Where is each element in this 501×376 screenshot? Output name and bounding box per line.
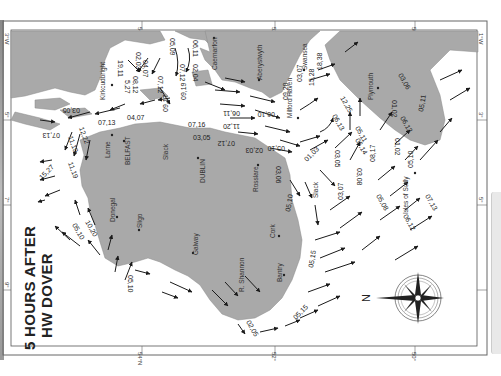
place-larne: Larne [104,141,111,158]
place-dublin: DUBLIN [199,159,206,183]
bottom-tick-54: 54°N [137,352,143,365]
slack-label: Slack [162,143,169,160]
place-caernarfon: Caernarfon [211,37,218,70]
rate-label: 07,13 [98,119,116,126]
rate-label: 02,03 [135,52,142,70]
rate-label: 06,11 [192,40,199,57]
right-tick-3: 3° [478,112,484,118]
rate-label: 03,08 [356,168,363,186]
rate-label: 04,07 [127,114,145,121]
rate-label: 03,05 [62,107,80,114]
rate-label: 04,07 [142,60,149,78]
place-swansea: Swansea [301,43,308,70]
place-plymouth: Plymouth [367,73,375,100]
rate-label: 05,09 [169,38,176,56]
rate-label: 07,12 [157,76,164,94]
title-line-2: HW DOVER [38,253,55,338]
place-donegal: Donegal [109,197,117,222]
rate-label: 19,11 [117,60,124,77]
rate-label: 01,02 [394,138,401,156]
place-river-shannon: R. Shannon [238,257,245,292]
left-tick-5: 5° [4,112,10,118]
place-rosslare: Rosslare [252,166,259,192]
place-isles-of-scilly: Isles of Scilly [402,176,410,214]
rate-label: 5,27 [124,80,131,94]
right-tick-5: 5° [478,197,484,203]
bottom-tick-52: 52° [271,352,277,362]
left-tick-9: 9° [4,282,10,288]
rate-label: 08,12 [132,76,139,94]
rate-label: 03,05 [334,150,341,168]
rate-label: 01,02 [391,100,398,118]
rate-label: 02,04 [192,64,199,82]
rate-label: 07,16 [188,121,206,128]
rate-label: 05,10 [407,150,414,168]
rate-label: 06,11 [223,110,240,117]
rate-label: 15,28 [308,68,315,86]
place-belfast: BELFAST [124,136,131,165]
rate-label: 11,20 [223,123,240,130]
rate-label: 03,06 [275,166,282,184]
rate-label: 05,10 [267,145,285,152]
place-sligo: Sligo [136,213,144,228]
rate-label: 03,05 [193,134,211,141]
compass-north-label: N [360,294,372,302]
rate-label: 02,03 [245,147,263,154]
rate-label: 05,10 [127,275,134,293]
right-tick-1w: 1°W [478,33,484,45]
rate-label: 03,07 [337,182,344,200]
rate-label: 07,13 [42,132,60,139]
rate-label: 07,12 [217,140,235,147]
place-cork: Cork [269,224,276,238]
place-galway: Galway [192,233,200,255]
place-bantry: Bantry [276,262,284,282]
rate-label: 09,19 [180,82,187,100]
bottom-tick-50: 50° [411,352,417,362]
title-line-1: 5 HOURS AFTER [21,226,38,350]
slack-label: Slack [312,181,319,198]
left-tick-7: 7° [4,197,10,203]
left-tick-3w: 3°W [4,33,10,45]
rate-label: 07,12 [179,64,186,82]
rate-label: 09,17 [162,94,169,112]
place-aberystwyth: Aberystwyth [256,44,264,80]
rate-label: 08,17 [369,144,376,162]
rate-label: 18,38 [316,52,323,70]
rate-label: 06,10 [257,111,275,118]
place-milford-haven: Milford Haven [286,78,293,118]
place-kirkcudbright: Kirkcudbright [99,62,107,100]
